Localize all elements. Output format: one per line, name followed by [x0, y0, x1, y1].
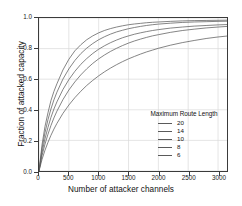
- y-tick-mark: [34, 172, 38, 173]
- legend-item: 8: [140, 143, 228, 151]
- legend-item-label: 20: [177, 120, 184, 126]
- y-tick-mark: [34, 141, 38, 142]
- chart-figure: 0.00.20.40.60.81.0 050010001500200025003…: [0, 0, 242, 206]
- legend-title: Maximum Route Length: [140, 110, 228, 117]
- legend-line-swatch: [158, 155, 172, 156]
- y-tick-mark: [34, 48, 38, 49]
- y-tick-mark: [34, 17, 38, 18]
- x-tick-mark: [219, 172, 220, 176]
- legend-item: 6: [140, 151, 228, 159]
- x-tick-mark: [68, 172, 69, 176]
- x-tick-mark: [189, 172, 190, 176]
- x-axis-label: Number of attacker channels: [0, 185, 242, 194]
- legend-item: 10: [140, 135, 228, 143]
- x-tick-mark: [98, 172, 99, 176]
- legend: Maximum Route Length 20141086: [140, 110, 228, 159]
- legend-item: 20: [140, 119, 228, 127]
- legend-item: 14: [140, 127, 228, 135]
- legend-line-swatch: [158, 147, 172, 148]
- legend-line-swatch: [158, 131, 172, 132]
- y-tick-mark: [34, 79, 38, 80]
- x-tick-mark: [38, 172, 39, 176]
- y-axis-label: Fraction of attacked capacity: [17, 9, 29, 179]
- x-tick-mark: [128, 172, 129, 176]
- legend-line-swatch: [158, 139, 172, 140]
- legend-items: 20141086: [140, 119, 228, 159]
- x-tick-mark: [159, 172, 160, 176]
- y-tick-mark: [34, 110, 38, 111]
- legend-item-label: 6: [177, 152, 180, 158]
- legend-item-label: 14: [177, 128, 184, 134]
- legend-item-label: 10: [177, 136, 184, 142]
- legend-line-swatch: [158, 123, 172, 124]
- legend-item-label: 8: [177, 144, 180, 150]
